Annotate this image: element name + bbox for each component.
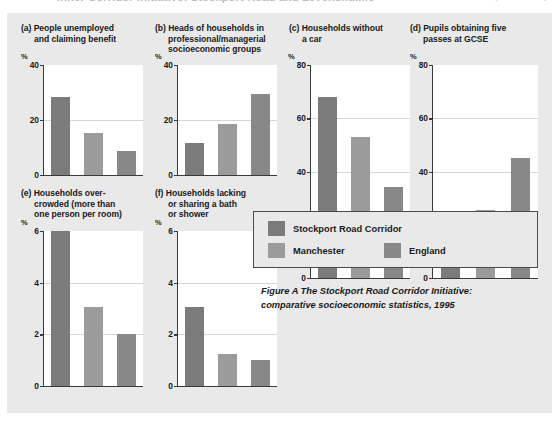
y-tick-mark <box>174 283 177 284</box>
figure-caption-line1: Figure A The Stockport Road Corridor Ini… <box>261 286 472 296</box>
y-tick-label: 6 <box>149 226 173 236</box>
figure-caption-line2: comparative socioeconomic statistics, 19… <box>261 300 455 310</box>
gridline <box>178 283 277 284</box>
legend-item-2: England <box>384 243 446 258</box>
y-tick-label: 2 <box>149 329 173 339</box>
figure-page: Inner Corridor Initiative: Stockport Roa… <box>0 0 559 426</box>
y-tick-label: 0 <box>149 381 173 391</box>
y-tick-mark <box>174 231 177 232</box>
legend-swatch-icon <box>384 243 401 258</box>
y-tick-mark <box>174 334 177 335</box>
legend-swatch-icon <box>268 243 285 258</box>
clipped-page-header: Inner Corridor Initiative: Stockport Roa… <box>0 0 559 10</box>
legend-label: Manchester <box>293 246 345 256</box>
clipped-header-title: Inner Corridor Initiative: Stockport Roa… <box>57 0 375 3</box>
y-tick-label: 4 <box>149 278 173 288</box>
legend-item-0: Stockport Road Corridor <box>268 221 402 236</box>
legend-label: England <box>409 246 446 256</box>
figure-panel: (a) People unemployedand claiming benefi… <box>7 13 552 413</box>
legend-label: Stockport Road Corridor <box>293 224 402 234</box>
bar-f-3 <box>251 360 269 386</box>
bar-f-1 <box>185 307 203 386</box>
chart-legend: Stockport Road Corridor Manchester Engla… <box>253 211 538 268</box>
clipped-header-right: (Manchester) <box>494 0 547 1</box>
legend-item-1: Manchester <box>268 243 345 258</box>
figure-caption: Figure A The Stockport Road Corridor Ini… <box>261 285 541 312</box>
chart-title-line: (f) Households lacking <box>155 188 283 199</box>
y-tick-mark <box>174 386 177 387</box>
legend-swatch-icon <box>268 221 285 236</box>
bar-f-2 <box>218 354 236 386</box>
chart-title-line: or sharing a bath <box>155 199 283 210</box>
